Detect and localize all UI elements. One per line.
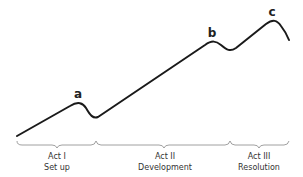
act-1-title: Act I (44, 151, 70, 162)
peak-a-label: a (74, 88, 82, 100)
act-1-subtitle: Set up (44, 162, 70, 173)
act-1-label: Act I Set up (44, 151, 70, 173)
act-1-brace (17, 141, 96, 148)
act-3-brace (230, 141, 289, 148)
peak-b-label: b (208, 27, 217, 39)
story-arc-curve (17, 21, 289, 136)
act-3-subtitle: Resolution (238, 162, 280, 173)
act-2-title: Act II (138, 151, 192, 162)
act-2-subtitle: Development (138, 162, 192, 173)
act-3-label: Act III Resolution (238, 151, 280, 173)
act-2-brace (96, 141, 230, 148)
peak-c-label: c (268, 6, 275, 18)
act-2-label: Act II Development (138, 151, 192, 173)
act-3-title: Act III (238, 151, 280, 162)
